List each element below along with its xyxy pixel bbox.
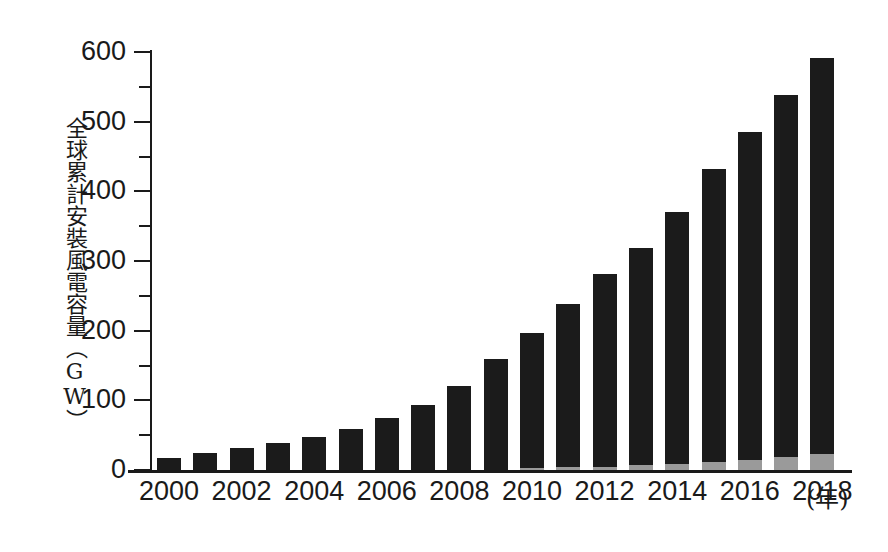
bar-segment-onshore xyxy=(157,458,181,470)
y-tick-label-500: 500 xyxy=(46,108,126,135)
bar-2001[interactable] xyxy=(193,52,217,470)
bar-segment-offshore xyxy=(520,468,544,470)
x-axis-line xyxy=(128,470,852,473)
bar-segment-onshore xyxy=(375,418,399,470)
y-tick-minor-550 xyxy=(139,86,151,88)
bar-segment-onshore xyxy=(411,405,435,470)
bar-2016[interactable] xyxy=(738,52,762,470)
y-tick-major-0 xyxy=(134,469,151,471)
bar-2018[interactable] xyxy=(810,52,834,470)
bar-segment-offshore xyxy=(702,462,726,470)
y-tick-minor-250 xyxy=(139,295,151,297)
bar-segment-offshore xyxy=(665,464,689,470)
y-tick-major-300 xyxy=(134,260,151,262)
y-tick-label-600: 600 xyxy=(46,38,126,65)
bar-segment-onshore xyxy=(266,443,290,470)
y-tick-label-400: 400 xyxy=(46,177,126,204)
y-tick-minor-450 xyxy=(139,156,151,158)
y-tick-major-600 xyxy=(134,51,151,53)
plot-area xyxy=(152,52,852,470)
bar-2004[interactable] xyxy=(302,52,326,470)
bar-segment-offshore xyxy=(593,467,617,470)
bar-2007[interactable] xyxy=(411,52,435,470)
bar-2008[interactable] xyxy=(447,52,471,470)
bar-segment-onshore xyxy=(629,248,653,465)
bar-2013[interactable] xyxy=(629,52,653,470)
bar-2017[interactable] xyxy=(774,52,798,470)
bar-2010[interactable] xyxy=(520,52,544,470)
bar-2006[interactable] xyxy=(375,52,399,470)
bar-segment-onshore xyxy=(774,95,798,457)
bar-2002[interactable] xyxy=(230,52,254,470)
bar-segment-onshore xyxy=(520,333,544,468)
bar-segment-offshore xyxy=(774,457,798,470)
bar-segment-onshore xyxy=(810,58,834,454)
y-tick-major-500 xyxy=(134,121,151,123)
bar-segment-onshore xyxy=(738,132,762,460)
bar-2014[interactable] xyxy=(665,52,689,470)
bar-2000[interactable] xyxy=(157,52,181,470)
bar-segment-offshore xyxy=(556,467,580,470)
y-tick-label-0: 0 xyxy=(46,456,126,483)
bar-2005[interactable] xyxy=(339,52,363,470)
bar-2011[interactable] xyxy=(556,52,580,470)
y-tick-label-300: 300 xyxy=(46,247,126,274)
bar-segment-onshore xyxy=(665,212,689,463)
x-axis-unit-label: (年) xyxy=(806,479,849,514)
bar-segment-onshore xyxy=(230,448,254,470)
y-tick-label-200: 200 xyxy=(46,317,126,344)
bar-2009[interactable] xyxy=(484,52,508,470)
bar-2003[interactable] xyxy=(266,52,290,470)
y-tick-minor-350 xyxy=(139,225,151,227)
bar-segment-onshore xyxy=(447,386,471,470)
y-tick-major-400 xyxy=(134,190,151,192)
wind-capacity-bar-chart: 全球累計安裝風電容量（GW） 0100200300400500600 20002… xyxy=(0,0,888,552)
bar-2015[interactable] xyxy=(702,52,726,470)
y-tick-label-100: 100 xyxy=(46,386,126,413)
bar-2012[interactable] xyxy=(593,52,617,470)
bar-segment-onshore xyxy=(193,453,217,470)
bar-segment-offshore xyxy=(629,465,653,470)
bar-segment-onshore xyxy=(593,274,617,467)
bar-segment-onshore xyxy=(702,169,726,462)
y-tick-major-100 xyxy=(134,399,151,401)
bar-segment-onshore xyxy=(556,304,580,467)
bar-segment-onshore xyxy=(339,429,363,470)
bar-segment-onshore xyxy=(302,437,326,470)
bar-segment-onshore xyxy=(484,359,508,470)
bar-segment-offshore xyxy=(738,460,762,470)
bar-segment-offshore xyxy=(810,454,834,470)
y-tick-minor-150 xyxy=(139,365,151,367)
y-tick-major-200 xyxy=(134,330,151,332)
y-tick-minor-50 xyxy=(139,434,151,436)
